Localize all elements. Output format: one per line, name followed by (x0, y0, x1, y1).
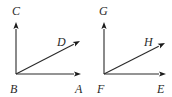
arrowhead-icon (73, 41, 80, 47)
vertex-label-B: B (10, 82, 18, 96)
arrowhead-icon (101, 22, 106, 29)
diagram-canvas: CDAB GHEF (0, 0, 172, 97)
angle-diagram: CDAB GHEF (0, 0, 172, 97)
arrowhead-icon (13, 22, 18, 29)
point-label-H: H (143, 35, 154, 49)
arrowhead-icon (74, 71, 81, 76)
point-label-A: A (74, 82, 83, 96)
right-angle-figure: GHEF (96, 4, 166, 96)
point-label-D: D (56, 35, 66, 49)
vertex-label-F: F (96, 82, 105, 96)
left-angle-figure: CDAB (10, 4, 83, 96)
point-label-G: G (99, 4, 108, 18)
arrowhead-icon (159, 71, 166, 76)
ray-FH (104, 46, 159, 74)
point-label-C: C (12, 4, 21, 18)
point-label-E: E (156, 82, 165, 96)
arrowhead-icon (158, 43, 165, 48)
